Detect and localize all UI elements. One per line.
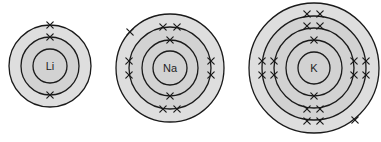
atom-li: Li: [9, 22, 91, 107]
element-symbol: Na: [163, 62, 178, 74]
atom-na: Na: [116, 14, 224, 122]
element-symbol: K: [310, 62, 318, 74]
atom-k: K: [249, 3, 379, 133]
diagram-canvas: LiNaK: [0, 0, 381, 142]
element-symbol: Li: [46, 60, 55, 72]
atomic-structure-diagram: LiNaK Electron shell diagrams of Li, Na …: [0, 0, 381, 142]
